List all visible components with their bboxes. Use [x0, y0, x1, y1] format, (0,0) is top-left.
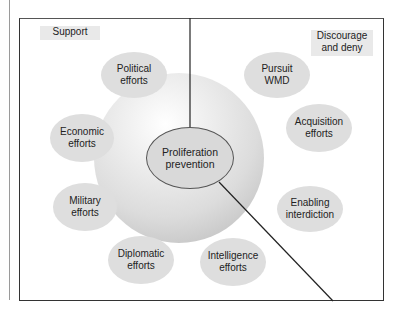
center-text: prevention: [162, 158, 218, 171]
discourage-region-label: Discourage and deny: [311, 30, 373, 56]
bubble-text: Intelligence: [208, 250, 259, 262]
bubble-text: WMD: [261, 75, 292, 87]
bubble-text: efforts: [118, 260, 165, 272]
bubble-acquisition: Acquisitionefforts: [286, 104, 352, 152]
center-text: Proliferation: [162, 146, 218, 159]
bubble-enabling-interdiction: Enablinginterdiction: [277, 186, 343, 232]
discourage-label-line1: Discourage: [311, 30, 373, 42]
center-proliferation-prevention: Proliferationprevention: [146, 127, 234, 189]
bubble-text: efforts: [117, 75, 151, 87]
discourage-label-line2: and deny: [311, 42, 373, 54]
bubble-text: Military: [69, 195, 101, 207]
bubble-text: Economic: [60, 126, 104, 138]
bubble-text: Pursuit: [261, 63, 292, 75]
bubble-text: Political: [117, 63, 151, 75]
bubble-text: efforts: [295, 128, 343, 140]
support-label-text: Support: [52, 26, 87, 37]
bubble-text: Diplomatic: [118, 248, 165, 260]
bubble-diplomatic: Diplomaticefforts: [108, 236, 174, 284]
bubble-text: efforts: [208, 262, 259, 274]
bubble-intelligence: Intelligenceefforts: [200, 238, 266, 286]
bubble-text: efforts: [60, 138, 104, 150]
bubble-pursuit-wmd: PursuitWMD: [244, 52, 310, 98]
bubble-text: Enabling: [286, 197, 334, 209]
bubble-economic: Economicefforts: [50, 114, 114, 162]
bubble-political: Politicalefforts: [101, 52, 167, 98]
bubble-text: efforts: [69, 207, 101, 219]
support-region-label: Support: [40, 26, 100, 40]
bubble-text: Acquisition: [295, 116, 343, 128]
bubble-text: interdiction: [286, 209, 334, 221]
bubble-military: Militaryefforts: [53, 183, 117, 231]
